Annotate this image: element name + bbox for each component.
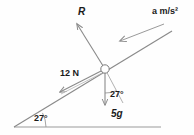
label-applied-force: 12 N [60,69,79,78]
physics-diagram: R a m/s² 12 N 27° 5g 27° [0,0,194,135]
label-normal-reaction: R [78,7,85,17]
label-angle-base: 27° [34,114,48,123]
vector-acceleration [120,24,164,41]
label-acceleration: a m/s² [152,7,178,16]
diagram-canvas [0,0,194,135]
label-angle-slope: 27° [110,90,124,99]
particle-node [101,65,109,73]
vector-normal-reaction [77,24,105,69]
label-weight: 5g [111,109,123,119]
